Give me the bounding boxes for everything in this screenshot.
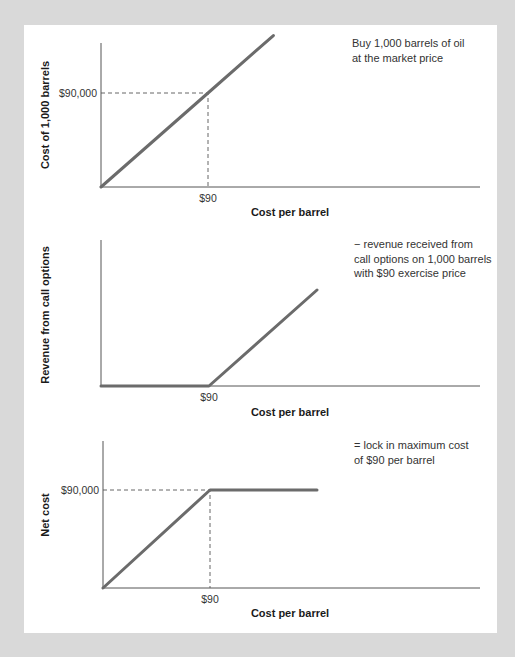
x-tick-label: $90: [200, 391, 218, 403]
chart-panel-2: $90Cost per barrelRevenue from call opti…: [39, 238, 492, 418]
chart-panel-3: $90$90,000Cost per barrelNet cost= lock …: [39, 439, 480, 619]
figure-panel: $90$90,000Cost per barrelCost of 1,000 b…: [24, 25, 497, 633]
y-axis-label: Revenue from call options: [39, 246, 51, 384]
x-tick-label: $90: [201, 593, 219, 605]
payoff-diagrams: $90$90,000Cost per barrelCost of 1,000 b…: [24, 25, 497, 633]
series-line: [101, 290, 317, 386]
series-line: [101, 36, 273, 187]
y-tick-label: $90,000: [61, 484, 99, 496]
annotation: Buy 1,000 barrels of oilat the market pr…: [352, 37, 465, 64]
x-axis-label: Cost per barrel: [251, 206, 329, 218]
annotation: = lock in maximum costof $90 per barrel: [354, 439, 469, 466]
annotation: − revenue received fromcall options on 1…: [353, 238, 492, 279]
y-tick-label: $90,000: [59, 87, 97, 99]
y-axis-label: Cost of 1,000 barrels: [39, 61, 51, 169]
x-axis-label: Cost per barrel: [251, 406, 329, 418]
y-axis-label: Net cost: [39, 493, 51, 537]
axes: [101, 43, 480, 187]
x-tick-label: $90: [199, 192, 217, 204]
x-axis-label: Cost per barrel: [251, 607, 329, 619]
chart-panel-1: $90$90,000Cost per barrelCost of 1,000 b…: [39, 36, 480, 218]
